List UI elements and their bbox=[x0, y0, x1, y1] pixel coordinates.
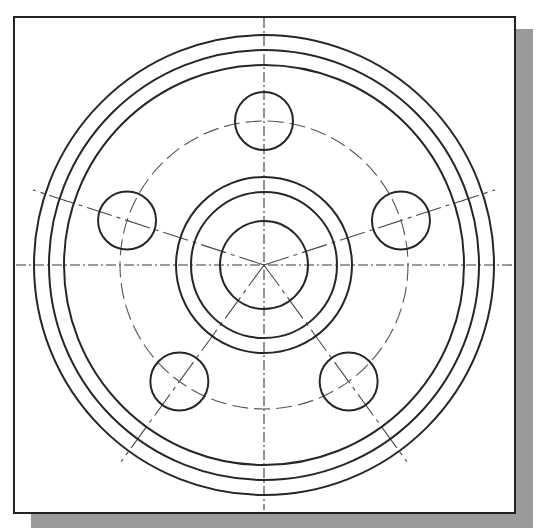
radial-centerline-4 bbox=[264, 265, 407, 462]
flange-drawing bbox=[0, 0, 540, 532]
radial-centerline-3 bbox=[121, 265, 264, 462]
